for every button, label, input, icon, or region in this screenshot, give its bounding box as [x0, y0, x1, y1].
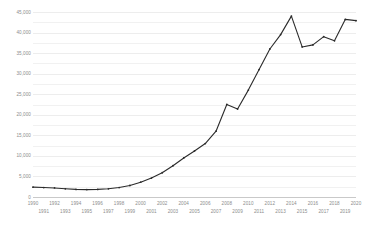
x-axis-tick-label: 1994 — [71, 201, 82, 206]
x-axis-tick-label: 2013 — [275, 209, 286, 214]
x-axis-tick-label: 2018 — [329, 201, 340, 206]
x-axis-tick-label: 2010 — [243, 201, 254, 206]
x-axis-tick-label: 2017 — [318, 209, 329, 214]
x-axis-tick-label: 1995 — [82, 209, 93, 214]
x-axis-tick-label: 2015 — [297, 209, 308, 214]
x-axis-tick-label: 1996 — [92, 201, 103, 206]
x-axis-tick-label: 2005 — [189, 209, 200, 214]
x-axis-tick-label: 2009 — [232, 209, 243, 214]
x-axis-tick-label: 1999 — [125, 209, 136, 214]
x-axis-tick-label: 2011 — [254, 209, 264, 214]
x-axis-tick-label: 1993 — [60, 209, 71, 214]
x-axis-tick-label: 2002 — [157, 201, 168, 206]
x-axis-tick-label: 2016 — [308, 201, 319, 206]
line-chart: 05,00010,00015,00020,00025,00030,00035,0… — [0, 0, 366, 237]
x-axis-tick-label: 2020 — [351, 201, 362, 206]
x-axis-tick-labels: 1990199119921993199419951996199719981999… — [0, 0, 366, 237]
x-axis-tick-label: 2003 — [168, 209, 179, 214]
x-axis-tick-label: 2012 — [265, 201, 276, 206]
x-axis-tick-label: 2007 — [211, 209, 222, 214]
x-axis-tick-label: 2000 — [135, 201, 146, 206]
x-axis-tick-label: 1992 — [49, 201, 60, 206]
x-axis-tick-label: 1991 — [38, 209, 49, 214]
x-axis-tick-label: 2004 — [178, 201, 189, 206]
x-axis-tick-label: 2014 — [286, 201, 297, 206]
x-axis-tick-label: 2001 — [146, 209, 157, 214]
x-axis-tick-label: 1997 — [103, 209, 114, 214]
x-axis-tick-label: 2006 — [200, 201, 211, 206]
x-axis-tick-label: 2008 — [222, 201, 233, 206]
x-axis-tick-label: 2019 — [340, 209, 351, 214]
x-axis-tick-label: 1990 — [28, 201, 39, 206]
x-axis-tick-label: 1998 — [114, 201, 125, 206]
